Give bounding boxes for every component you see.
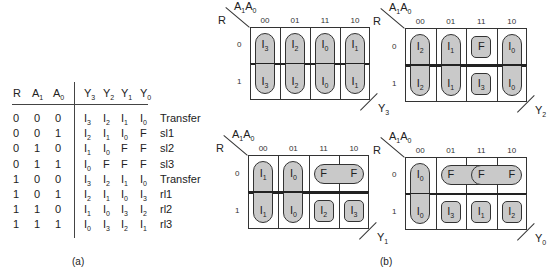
column-header: 10 [502,146,522,155]
cell-A0: 1 [55,218,61,230]
cell-value: I2 [314,204,334,216]
cell-A1: 0 [34,127,40,139]
output-label: Y2 [535,104,546,116]
header-Y3: Y3 [84,87,95,99]
row-variable-label: R [373,144,381,156]
caption-b: (b) [380,256,392,267]
cell-Y2: I2 [103,112,110,124]
cell-value: I2 [285,75,305,87]
cell-A0: 1 [55,158,61,170]
row-header: 1 [392,79,396,88]
column-header: 11 [315,16,335,25]
cell-operation: sl1 [160,127,174,139]
cell-Y1: I0 [121,127,128,139]
cell-Y3: I0 [84,158,91,170]
cell-Y0: F [140,142,147,154]
cell-A0: 1 [55,188,61,200]
cell-Y3: I2 [84,127,91,139]
cell-value: I2 [502,205,522,217]
column-variable-label: A1A0 [234,0,257,12]
cell-operation: rl2 [160,203,172,215]
row-variable-label: R [218,14,226,26]
cell-A0: 0 [55,203,61,215]
cell-value: I1 [471,205,491,217]
cell-value: I3 [471,77,491,89]
column-variable-label: A1A0 [389,1,412,13]
cell-Y3: I0 [84,218,91,230]
cell-Y0: F [140,127,147,139]
cell-value: I3 [255,75,275,87]
cell-Y3: I1 [84,203,91,215]
cell-value: I0 [315,38,335,50]
cell-R: 0 [13,127,19,139]
cell-value: I3 [441,205,461,217]
column-header: 10 [345,16,365,25]
cell-value: I0 [283,204,303,216]
cell-operation: Transfer [160,173,201,185]
column-header: 11 [471,17,491,26]
cell-Y2: F [103,158,110,170]
cell-operation: Transfer [160,112,201,124]
cell-value: F [471,168,491,180]
column-variable-label: A1A0 [232,128,255,140]
cell-Y2: I2 [103,173,110,185]
cell-value: I3 [255,38,275,50]
cell-Y0: I0 [140,112,147,124]
cell-R: 0 [13,142,19,154]
cell-A1: 0 [34,188,40,200]
output-label: Y1 [377,231,388,243]
cell-A1: 0 [34,173,40,185]
cell-Y1: F [121,158,128,170]
cell-Y3: I1 [84,142,91,154]
grid-line-overlay [248,191,369,193]
header-Y2: Y2 [103,87,114,99]
cell-A0: 0 [55,142,61,154]
row-header: 1 [392,207,396,216]
cell-Y3: I3 [84,173,91,185]
cell-value: F [471,40,491,52]
column-header: 01 [441,17,461,26]
cell-R: 1 [13,218,19,230]
row-header: 0 [237,40,241,49]
cell-value: I0 [315,75,335,87]
cell-A0: 0 [55,173,61,185]
row-header: 0 [392,170,396,179]
cell-value: F [441,168,461,180]
cell-Y1: I3 [121,203,128,215]
cell-R: 0 [13,158,19,170]
cell-A1: 1 [34,218,40,230]
cell-value: F [314,167,334,179]
cell-Y0: I1 [140,218,147,230]
column-header: 00 [410,17,430,26]
cell-value: I1 [441,77,461,89]
cell-value: I1 [345,38,365,50]
column-header: 01 [283,144,303,153]
grid-line-overlay [250,63,370,65]
cell-Y0: I3 [140,188,147,200]
cell-value: I0 [502,40,522,52]
cell-A0: 0 [55,112,61,124]
cell-Y0: F [140,158,147,170]
cell-R: 1 [13,203,19,215]
cell-operation: rl1 [160,188,172,200]
header-A0: A0 [53,87,64,99]
cell-Y2: I1 [103,127,110,139]
cell-Y2: I3 [103,218,110,230]
header-Y1: Y1 [121,87,132,99]
grid-line-overlay [405,193,527,195]
column-header: 01 [441,146,461,155]
cell-value: I3 [344,204,364,216]
table-column-divider [74,82,75,238]
header-R: R [13,87,21,99]
row-header: 1 [235,206,239,215]
column-header: 00 [410,146,430,155]
column-header: 11 [314,144,334,153]
cell-R: 0 [13,112,19,124]
cell-value: F [344,167,364,179]
column-header: 11 [471,146,491,155]
cell-value: I2 [285,38,305,50]
cell-Y3: I2 [84,188,91,200]
cell-A1: 1 [34,142,40,154]
cell-Y1: I1 [121,173,128,185]
cell-value: F [502,168,522,180]
